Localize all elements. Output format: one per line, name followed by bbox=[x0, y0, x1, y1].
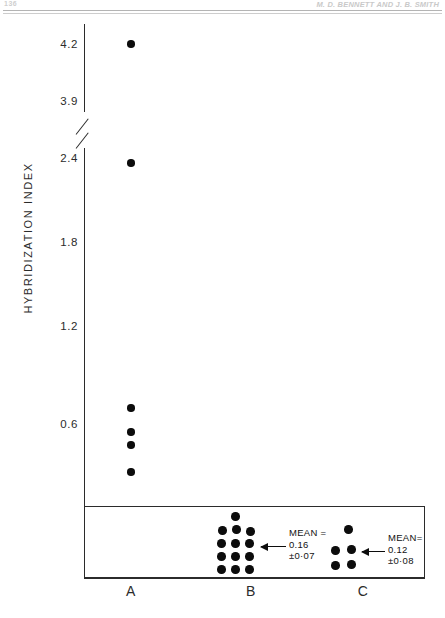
data-point-b bbox=[245, 552, 254, 561]
data-point-b bbox=[231, 552, 240, 561]
mean-b-line3: ±0·07 bbox=[289, 550, 326, 562]
y-axis-line bbox=[84, 24, 85, 506]
y-tick-label: 4.2 bbox=[32, 38, 78, 50]
x-tick-label-b: B bbox=[231, 583, 271, 599]
y-tick-label: 3.9 bbox=[32, 95, 78, 107]
data-point-c bbox=[344, 525, 353, 534]
mean-c-arrow bbox=[362, 551, 385, 552]
mean-b-line1: MEAN = bbox=[289, 527, 326, 539]
data-point-b bbox=[232, 525, 241, 534]
data-point-b bbox=[245, 539, 254, 548]
data-point-a bbox=[127, 468, 135, 476]
data-point-b bbox=[231, 565, 240, 574]
data-point-a bbox=[127, 40, 135, 48]
x-tick-label-a: A bbox=[111, 583, 151, 599]
mean-b-annotation: MEAN = 0.16 ±0·07 bbox=[289, 527, 326, 562]
data-point-b bbox=[231, 539, 240, 548]
y-tick-label: 1.2 bbox=[32, 320, 78, 332]
data-point-b bbox=[246, 527, 255, 536]
y-tick-label: 0.6 bbox=[32, 418, 78, 430]
data-point-a bbox=[127, 441, 135, 449]
data-point-c bbox=[331, 561, 340, 570]
mean-b-line2: 0.16 bbox=[289, 539, 326, 551]
data-point-a bbox=[127, 159, 135, 167]
x-tick-label-c: C bbox=[343, 583, 383, 599]
data-point-b bbox=[231, 512, 240, 521]
data-point-c bbox=[331, 546, 340, 555]
data-point-a bbox=[127, 404, 135, 412]
mean-b-arrow bbox=[261, 546, 286, 547]
data-point-c bbox=[347, 560, 356, 569]
data-point-c bbox=[347, 545, 356, 554]
data-point-a bbox=[127, 428, 135, 436]
mean-c-annotation: MEAN= 0.12 ±0·08 bbox=[388, 532, 423, 567]
figure-page: 136 M. D. BENNETT AND J. B. SMITH HYBRID… bbox=[0, 0, 445, 618]
data-point-b bbox=[217, 565, 226, 574]
scatter-plot: HYBRIDIZATION INDEX 4.2 3.9 2.4 1.8 1.2 … bbox=[0, 0, 445, 618]
y-axis-break-icon bbox=[72, 112, 98, 148]
y-tick-label: 2.4 bbox=[32, 152, 78, 164]
mean-c-line1: MEAN= bbox=[388, 532, 423, 544]
low-value-inset-panel: MEAN = 0.16 ±0·07 MEAN= 0.12 ±0·08 bbox=[84, 506, 425, 578]
data-point-b bbox=[217, 539, 226, 548]
data-point-b bbox=[217, 552, 226, 561]
x-axis-line bbox=[84, 578, 425, 579]
data-point-b bbox=[218, 526, 227, 535]
mean-c-line2: 0.12 bbox=[388, 544, 423, 556]
y-tick-label: 1.8 bbox=[32, 236, 78, 248]
data-point-b bbox=[245, 565, 254, 574]
mean-c-line3: ±0·08 bbox=[388, 555, 423, 567]
